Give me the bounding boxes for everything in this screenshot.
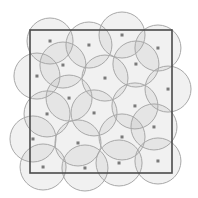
disc-center-point [118,161,121,164]
disc-center-point [35,75,38,78]
disc-center-point [121,34,124,37]
disk-cover-diagram [0,0,198,198]
disc-center-point [46,112,49,115]
disc-center-point [156,47,159,50]
disc-center-point [103,77,106,80]
disc-center-point [121,135,124,138]
disc-center-point [31,137,34,140]
disc-center-point [87,44,90,47]
disc-center-point [68,97,71,100]
disc-center-point [49,40,52,43]
disc-center-point [76,141,79,144]
disc-center-point [152,125,155,128]
disc-center-point [42,165,45,168]
disc-layer [10,12,191,191]
disc-center-point [134,63,137,66]
disc-center-point [61,64,64,67]
disc-center-point [156,159,159,162]
disc-center-point [83,166,86,169]
disc-center-point [133,104,136,107]
disc-center-point [93,111,96,114]
disc-center-point [167,88,170,91]
